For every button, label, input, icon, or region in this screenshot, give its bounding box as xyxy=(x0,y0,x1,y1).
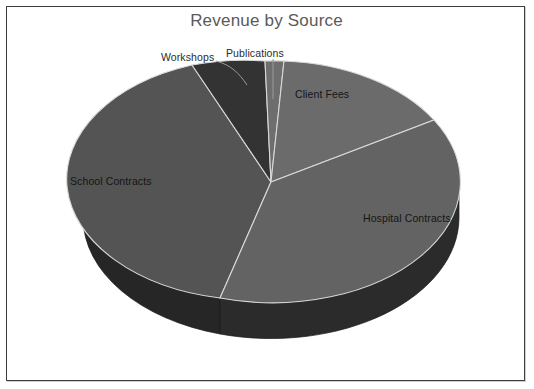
chart-frame: Revenue by Source Wor xyxy=(6,6,525,381)
pie-label-hospital-contracts: Hospital Contracts xyxy=(363,212,451,224)
pie-chart-graphic xyxy=(7,7,526,382)
pie-label-client-fees: Client Fees xyxy=(295,88,349,100)
pie-label-publications: Publications xyxy=(226,47,284,59)
pie-label-workshops: Workshops xyxy=(161,51,214,63)
pie-label-school-contracts: School Contracts xyxy=(70,175,152,187)
